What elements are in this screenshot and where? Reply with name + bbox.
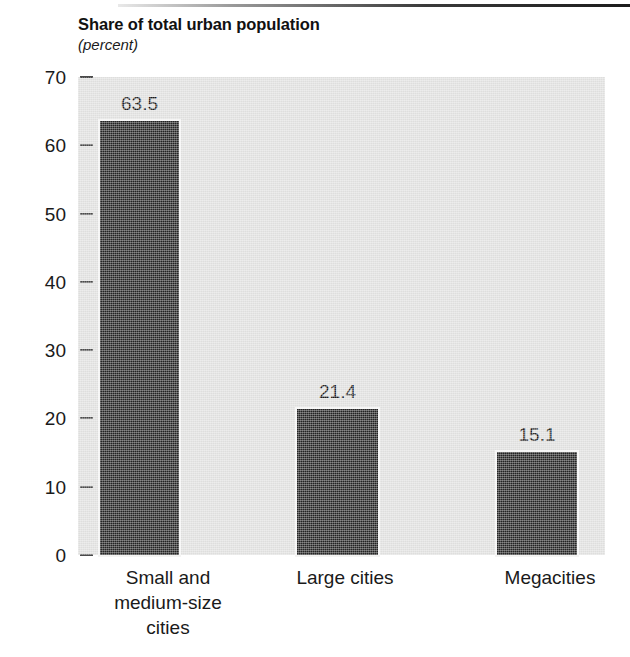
chart-subtitle: (percent) <box>78 35 598 54</box>
y-axis-tick-label: 40 <box>10 272 66 291</box>
bar-value-label: 15.1 <box>477 425 597 445</box>
y-axis-tick-label: 0 <box>10 546 66 565</box>
bar <box>497 452 577 555</box>
y-axis-tick-mark <box>80 144 93 146</box>
x-axis-category-label: Megacities <box>455 565 630 590</box>
bar <box>100 121 179 555</box>
y-axis-tick-mark <box>80 213 93 215</box>
bar-value-label: 63.5 <box>80 94 199 114</box>
chart-figure: Share of total urban population (percent… <box>0 0 630 657</box>
y-axis-tick-label: 70 <box>10 68 66 87</box>
plot-area: 70605040302010063.521.415.1 <box>78 77 605 555</box>
y-axis-tick-mark <box>80 554 93 556</box>
y-axis-tick-label: 30 <box>10 341 66 360</box>
bar <box>297 409 378 555</box>
y-axis-tick-label: 20 <box>10 409 66 428</box>
y-axis-tick-mark <box>80 349 93 351</box>
y-axis-tick-mark <box>80 486 93 488</box>
x-axis-category-line: Small and <box>58 565 278 590</box>
x-axis-category-line: Large cities <box>250 565 440 590</box>
x-axis-category-line: Megacities <box>455 565 630 590</box>
y-axis-tick-label: 50 <box>10 204 66 223</box>
x-axis-category-line: cities <box>58 615 278 640</box>
y-axis-tick-mark <box>80 76 93 78</box>
x-axis-category-label: Small andmedium-sizecities <box>58 565 278 640</box>
chart-title-block: Share of total urban population (percent… <box>78 14 598 54</box>
y-axis-tick-label: 10 <box>10 477 66 496</box>
x-axis-category-label: Large cities <box>250 565 440 590</box>
x-axis-category-line: medium-size <box>58 590 278 615</box>
y-axis-tick-label: 60 <box>10 136 66 155</box>
y-axis-tick-mark <box>80 281 93 283</box>
page-title: Share of total urban population <box>78 14 598 34</box>
y-axis-tick-mark <box>80 417 93 419</box>
bar-value-label: 21.4 <box>277 382 398 402</box>
